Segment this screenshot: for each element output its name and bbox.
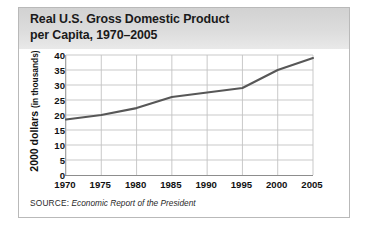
data-series-line bbox=[66, 58, 313, 120]
x-tick-label: 1995 bbox=[231, 179, 252, 190]
y-tick-label: 30 bbox=[54, 80, 65, 91]
x-axis-ticks: 19701975198019851990199520002005 bbox=[65, 179, 312, 195]
y-tick-label: 40 bbox=[54, 50, 65, 61]
x-tick-label: 1985 bbox=[160, 179, 181, 190]
y-axis-label-sub: (in thousands) bbox=[30, 50, 40, 108]
y-tick-label: 20 bbox=[54, 110, 65, 121]
x-tick-label: 1970 bbox=[54, 179, 75, 190]
y-axis-ticks: 0510152025303540 bbox=[41, 49, 65, 219]
y-axis-label: 2000 dollars (in thousands) bbox=[28, 41, 40, 181]
x-tick-label: 1990 bbox=[195, 179, 216, 190]
page-title: Real U.S. Gross Domestic Product per Cap… bbox=[30, 12, 343, 43]
x-tick-label: 2005 bbox=[301, 179, 322, 190]
source-title: Economic Report of the President bbox=[72, 198, 196, 208]
y-tick-label: 35 bbox=[54, 65, 65, 76]
line-chart-svg bbox=[66, 55, 313, 175]
x-tick-label: 1975 bbox=[90, 179, 111, 190]
x-tick-label: 2000 bbox=[266, 179, 287, 190]
source-label: SOURCE: bbox=[30, 198, 69, 208]
y-tick-label: 10 bbox=[54, 140, 65, 151]
y-axis-label-main: 2000 dollars bbox=[28, 111, 40, 172]
plot-area bbox=[65, 55, 313, 176]
figure-container: Real U.S. Gross Domestic Product per Cap… bbox=[18, 7, 350, 218]
y-tick-label: 15 bbox=[54, 125, 65, 136]
source-note: SOURCE: Economic Report of the President bbox=[30, 198, 196, 208]
title-band: Real U.S. Gross Domestic Product per Cap… bbox=[19, 8, 349, 49]
x-tick-label: 1980 bbox=[125, 179, 146, 190]
y-tick-label: 25 bbox=[54, 95, 65, 106]
chart-plot-wrapper: 2000 dollars (in thousands) 051015202530… bbox=[19, 49, 349, 219]
